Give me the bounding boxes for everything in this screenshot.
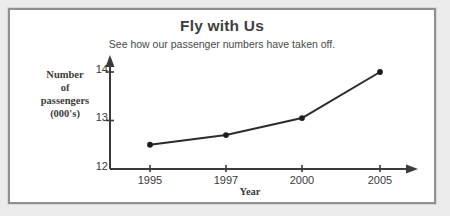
data-point-2000 bbox=[299, 115, 305, 121]
x-axis-arrow-icon bbox=[406, 165, 418, 174]
data-point-2005 bbox=[377, 69, 383, 75]
data-series-line bbox=[150, 72, 380, 145]
data-point-1997 bbox=[223, 132, 229, 138]
chart-area: Fly with Us See how our passenger number… bbox=[10, 10, 434, 202]
data-series-markers bbox=[147, 69, 383, 148]
y-axis-arrow-icon bbox=[106, 55, 115, 67]
poster-panel: Fly with Us See how our passenger number… bbox=[8, 8, 436, 204]
data-point-1995 bbox=[147, 142, 153, 148]
plot-svg bbox=[10, 10, 434, 202]
